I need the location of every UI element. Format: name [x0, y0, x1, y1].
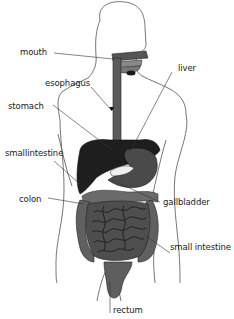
label-small-intestine-left: smallintestine — [5, 149, 63, 158]
label-colon: colon — [19, 195, 41, 204]
rectum-organ — [104, 262, 132, 298]
label-rectum: rectum — [113, 306, 143, 315]
small-intestine-coils — [86, 201, 150, 261]
label-gallbladder: gallbladder — [163, 198, 210, 207]
label-esophagus: esophagus — [45, 79, 90, 88]
digestive-system-diagram: mouth esophagus liver stomach smallintes… — [0, 0, 234, 319]
esophagus-tube — [113, 58, 121, 142]
label-liver: liver — [178, 64, 196, 73]
label-mouth: mouth — [20, 48, 47, 57]
label-small-intestine-right: small intestine — [170, 243, 231, 252]
label-stomach: stomach — [8, 102, 44, 111]
